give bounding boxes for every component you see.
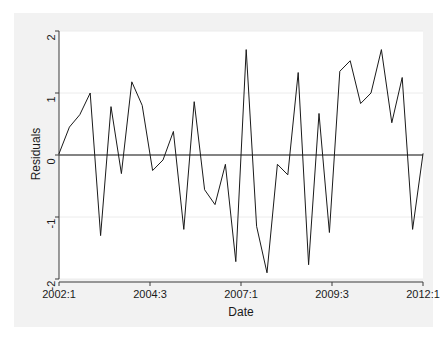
x-tick-label: 2007:1 xyxy=(224,289,258,300)
x-axis-title: Date xyxy=(228,305,253,319)
x-tick-label: 2009:3 xyxy=(315,289,349,300)
x-tick-label: 2012:1 xyxy=(406,289,440,300)
residual-plot-figure: 210-1-2 2002:12004:32007:12009:32012:1 R… xyxy=(0,0,447,343)
y-tick-label: 0 xyxy=(46,155,57,169)
y-tick-label: 2 xyxy=(46,31,57,45)
y-tick-label: 1 xyxy=(46,93,57,107)
x-tick-marks xyxy=(59,282,423,286)
x-tick-label: 2002:1 xyxy=(42,289,76,300)
x-tick-label: 2004:3 xyxy=(133,289,167,300)
y-axis-title: Residuals xyxy=(29,119,43,189)
residuals-series-line xyxy=(59,50,423,273)
y-tick-label: -1 xyxy=(46,217,57,231)
